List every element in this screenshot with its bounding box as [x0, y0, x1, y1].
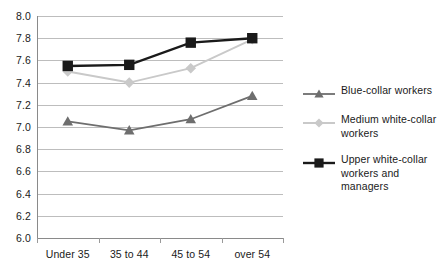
- data-point-marker: [247, 91, 258, 100]
- data-series: [63, 33, 258, 71]
- data-point-marker: [247, 33, 257, 43]
- legend-label: Upper white-collar workers and managers: [341, 153, 446, 194]
- legend-label: Blue-collar workers: [341, 84, 446, 98]
- legend-swatch-diamond-icon: [303, 115, 335, 127]
- data-point-marker: [124, 77, 135, 88]
- data-point-marker: [185, 63, 196, 74]
- data-series: [62, 91, 257, 135]
- legend-item[interactable]: Blue-collar workers: [303, 84, 446, 100]
- plot-area: 6.06.26.46.66.87.07.27.47.67.88.0 Under …: [0, 0, 300, 276]
- chart-legend: Blue-collar workersMedium white-collar w…: [303, 84, 446, 207]
- legend-item[interactable]: Upper white-collar workers and managers: [303, 153, 446, 194]
- data-series: [62, 34, 257, 88]
- legend-swatch-triangle-icon: [303, 86, 335, 98]
- legend-item[interactable]: Medium white-collar workers: [303, 113, 446, 140]
- series-line: [68, 96, 253, 130]
- series-line: [68, 39, 253, 82]
- data-point-marker: [186, 37, 196, 47]
- data-point-marker: [124, 60, 134, 70]
- legend-swatch-square-icon: [303, 155, 335, 167]
- legend-label: Medium white-collar workers: [341, 113, 446, 140]
- series-layer: [0, 0, 300, 276]
- data-point-marker: [62, 116, 73, 125]
- data-point-marker: [63, 61, 73, 71]
- line-chart: 6.06.26.46.66.87.07.27.47.67.88.0 Under …: [0, 0, 446, 276]
